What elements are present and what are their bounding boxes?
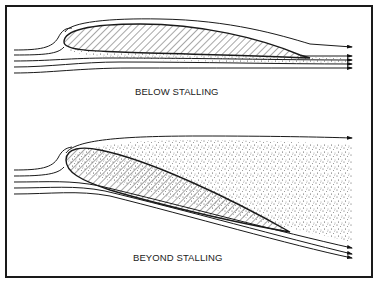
- panel-beyond-stalling: [14, 136, 352, 258]
- streamline: [14, 28, 72, 50]
- caption-beyond-stalling: BEYOND STALLING: [133, 252, 223, 263]
- panel-below-stalling: [14, 19, 352, 73]
- streamline: [14, 147, 72, 170]
- airfoil-stall-diagram: [0, 0, 376, 286]
- caption-below-stalling: BELOW STALLING: [135, 86, 219, 97]
- streamline: [14, 68, 352, 73]
